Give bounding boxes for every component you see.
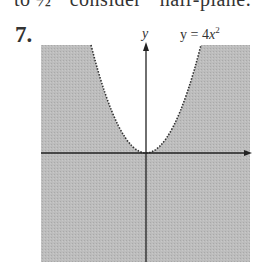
equation-label: y = 4x2	[180, 25, 220, 43]
y-axis-arrow-icon	[143, 42, 149, 51]
equation-exponent: 2	[215, 25, 220, 35]
equation-lhs: y = 4	[180, 27, 209, 42]
y-axis-label: y	[142, 26, 148, 42]
